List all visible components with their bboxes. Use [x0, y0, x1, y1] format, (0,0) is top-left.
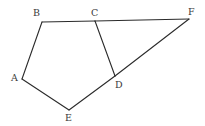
edge-D-F	[115, 19, 189, 76]
edge-C-F	[95, 19, 189, 21]
edge-A-B	[22, 22, 42, 79]
vertex-label-d: D	[115, 80, 123, 90]
edge-E-A	[22, 79, 69, 110]
edge-B-C	[42, 21, 95, 22]
edges-group	[22, 19, 189, 110]
vertex-label-c: C	[91, 8, 98, 18]
edge-D-E	[69, 76, 115, 110]
vertex-label-b: B	[33, 8, 40, 18]
vertex-label-e: E	[65, 113, 72, 123]
edge-C-D	[95, 21, 115, 76]
vertex-label-f: F	[188, 7, 195, 17]
geometry-figure: ABCDEF	[0, 0, 205, 126]
vertex-label-a: A	[11, 73, 18, 83]
figure-canvas	[0, 0, 205, 126]
